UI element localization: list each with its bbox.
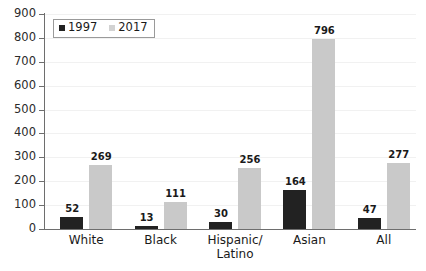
y-axis-tick: [39, 62, 44, 63]
plot-area: 52269131113025616479647277: [44, 14, 416, 229]
bar-value-label: 796: [304, 26, 344, 36]
category-label-line1: Asian: [293, 233, 326, 247]
bar-group: 164796: [283, 14, 335, 229]
y-axis-tick-label: 600: [0, 80, 36, 92]
bar-chart: 52269131113025616479647277 9008007006005…: [0, 0, 426, 271]
category-label-line1: White: [69, 233, 104, 247]
bar-1997-all[interactable]: [358, 218, 381, 229]
bar-value-label: 30: [201, 209, 241, 219]
legend-label-1997: 1997: [68, 22, 97, 34]
legend-swatch-icon-2017: [109, 25, 115, 31]
bar-value-label: 52: [52, 204, 92, 214]
y-axis-labels: 9008007006005004003002001000: [0, 0, 36, 271]
bar-1997-asian[interactable]: [283, 190, 306, 229]
legend-item-1997[interactable]: 1997: [59, 22, 97, 34]
y-axis-tick-label: 700: [0, 56, 36, 68]
bar-value-label: 164: [275, 177, 315, 187]
bar-value-label: 13: [127, 213, 167, 223]
x-axis-category-label: All: [329, 233, 426, 247]
y-axis-tick: [39, 38, 44, 39]
bar-group: 13111: [135, 14, 187, 229]
y-axis-tick: [39, 86, 44, 87]
bar-value-label: 269: [81, 152, 121, 162]
bar-1997-hispaniclatino[interactable]: [209, 222, 232, 229]
y-axis-tick: [39, 133, 44, 134]
y-axis-tick-label: 200: [0, 175, 36, 187]
y-axis-tick: [39, 157, 44, 158]
y-axis-tick: [39, 205, 44, 206]
legend: 1997 2017: [53, 19, 155, 38]
bar-group: 52269: [60, 14, 112, 229]
category-label-line1: Black: [144, 233, 176, 247]
category-label-line1: All: [376, 233, 391, 247]
bar-2017-hispaniclatino[interactable]: [238, 168, 261, 229]
y-axis-tick-label: 500: [0, 104, 36, 116]
bar-2017-white[interactable]: [89, 165, 112, 229]
bar-group: 47277: [358, 14, 410, 229]
y-axis-tick: [39, 14, 44, 15]
y-axis-tick: [39, 110, 44, 111]
x-axis-line: [44, 229, 416, 230]
bar-value-label: 256: [230, 155, 270, 165]
legend-item-2017[interactable]: 2017: [109, 22, 147, 34]
y-axis-line: [44, 13, 45, 230]
y-axis-tick-label: 300: [0, 151, 36, 163]
y-axis-tick-label: 100: [0, 199, 36, 211]
y-axis-tick-label: 900: [0, 8, 36, 20]
legend-swatch-icon-1997: [59, 25, 65, 31]
bar-2017-asian[interactable]: [312, 39, 335, 229]
bar-value-label: 277: [379, 150, 419, 160]
bar-1997-white[interactable]: [60, 217, 83, 229]
bar-value-label: 111: [156, 189, 196, 199]
legend-label-2017: 2017: [118, 22, 147, 34]
y-axis-tick-label: 400: [0, 127, 36, 139]
y-axis-tick: [39, 181, 44, 182]
category-label-line2: Latino: [180, 247, 290, 261]
bar-value-label: 47: [350, 205, 390, 215]
y-axis-tick: [39, 229, 44, 230]
bar-group: 30256: [209, 14, 261, 229]
bar-2017-all[interactable]: [387, 163, 410, 229]
y-axis-tick-label: 800: [0, 32, 36, 44]
bar-2017-black[interactable]: [164, 202, 187, 229]
